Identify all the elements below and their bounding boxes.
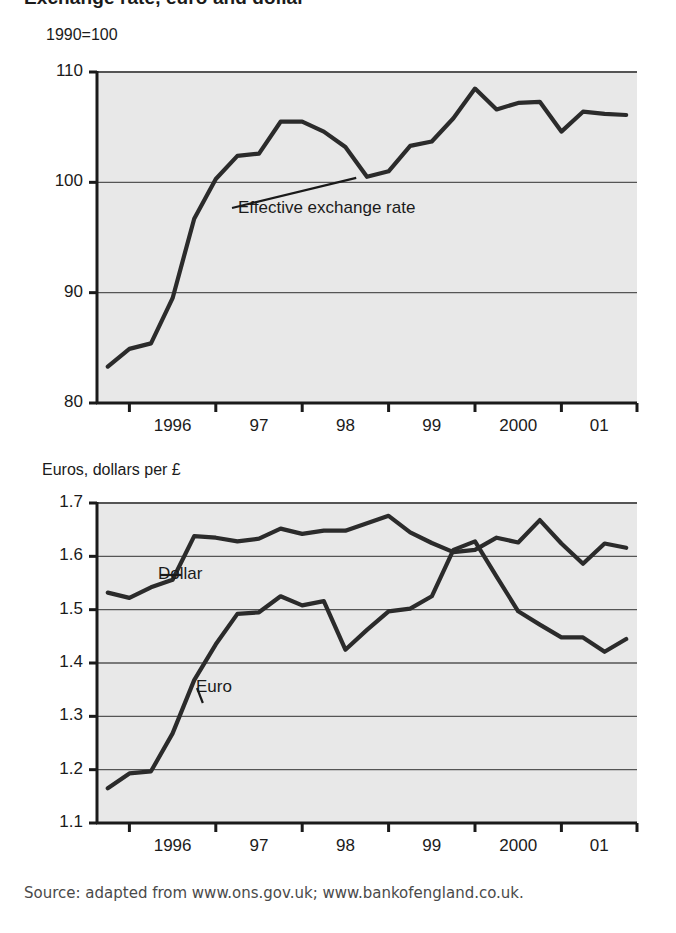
chart-euros-dollars-per-pound	[0, 492, 676, 852]
y-axis-tick-label: 1.6	[33, 545, 83, 565]
x-axis-tick-label: 98	[305, 416, 385, 436]
x-axis-tick-label: 97	[219, 836, 299, 856]
y-axis-tick-label: 110	[33, 61, 83, 81]
series-annotation-label: Effective exchange rate	[238, 198, 415, 218]
bottom-chart-unit-caption: Euros, dollars per £	[42, 461, 181, 479]
source-note: Source: adapted from www.ons.gov.uk; www…	[24, 884, 524, 902]
x-axis-tick-label: 1996	[133, 416, 213, 436]
x-axis-tick-label: 97	[219, 416, 299, 436]
top-chart-plot-area	[0, 60, 676, 420]
x-axis-tick-label: 01	[559, 836, 639, 856]
y-axis-tick-label: 1.7	[33, 492, 83, 512]
bottom-chart-plot-area	[0, 492, 676, 852]
y-axis-tick-label: 1.5	[33, 599, 83, 619]
series-annotation-label: Euro	[196, 677, 232, 697]
x-axis-tick-label: 99	[392, 416, 472, 436]
x-axis-tick-label: 01	[559, 416, 639, 436]
y-axis-tick-label: 90	[33, 282, 83, 302]
x-axis-tick-label: 2000	[478, 836, 558, 856]
figure-page: Exchange rate, euro and dollar 1990=100 …	[0, 0, 676, 933]
y-axis-tick-label: 80	[33, 392, 83, 412]
x-axis-tick-label: 1996	[133, 836, 213, 856]
x-axis-tick-label: 98	[305, 836, 385, 856]
x-axis-tick-label: 2000	[478, 416, 558, 436]
y-axis-tick-label: 1.2	[33, 759, 83, 779]
chart-effective-exchange-rate	[0, 60, 676, 420]
y-axis-tick-label: 100	[33, 171, 83, 191]
top-chart-unit-caption: 1990=100	[46, 26, 118, 44]
figure-title: Exchange rate, euro and dollar	[24, 0, 305, 9]
x-axis-tick-label: 99	[392, 836, 472, 856]
y-axis-tick-label: 1.4	[33, 652, 83, 672]
y-axis-tick-label: 1.3	[33, 705, 83, 725]
series-annotation-label: Dollar	[158, 564, 202, 584]
y-axis-tick-label: 1.1	[33, 812, 83, 832]
